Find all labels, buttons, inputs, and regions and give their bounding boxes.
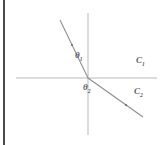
- theta2-ray-point-marker: [125, 104, 127, 106]
- c2-subscript: 2: [140, 92, 143, 98]
- theta1-subscript: 1: [80, 56, 83, 62]
- c1-region-label: C1: [136, 56, 145, 67]
- coordinate-plot: [0, 0, 162, 145]
- theta1-ray-point-marker: [71, 44, 73, 46]
- c1-subscript: 1: [142, 61, 145, 67]
- figure-container: θ1 θ2 C1 C2: [0, 0, 162, 145]
- theta2-subscript: 2: [88, 88, 91, 94]
- theta1-label: θ1: [75, 51, 82, 62]
- c2-region-label: C2: [134, 87, 143, 98]
- theta1-ray-line: [60, 20, 88, 78]
- theta2-label: θ2: [83, 83, 90, 94]
